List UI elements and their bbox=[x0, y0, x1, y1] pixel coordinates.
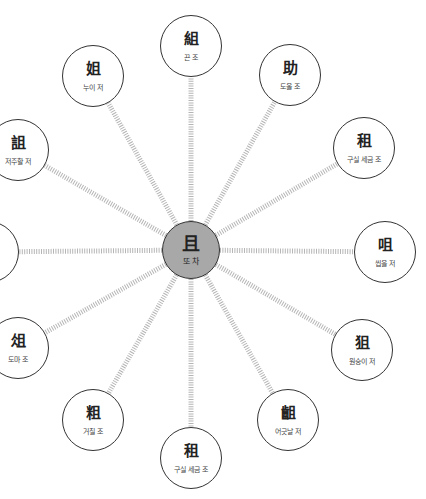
node-hanja: 粗 bbox=[86, 404, 101, 422]
node-hanja: 助 bbox=[283, 59, 298, 77]
node-0[interactable]: 組 끈 조 bbox=[160, 15, 222, 77]
node-reading: 도마 조 bbox=[8, 356, 28, 365]
node-hanja: 咀 bbox=[378, 236, 393, 254]
node-hanja: 齟 bbox=[281, 404, 296, 422]
radial-diagram: 且 또 차 組 끈 조 助 도울 조 租 구실 세금 조 咀 씹을 저 狙 원숭… bbox=[0, 0, 426, 499]
connector-line bbox=[19, 250, 162, 251]
node-reading: 원숭이 저 bbox=[349, 358, 375, 367]
node-hanja: 租 bbox=[357, 132, 372, 150]
node-3[interactable]: 咀 씹을 저 bbox=[354, 221, 416, 283]
node-hanja: 俎 bbox=[11, 332, 26, 350]
node-hanja: 租 bbox=[184, 442, 199, 460]
node-hanja: 組 bbox=[184, 30, 199, 48]
node-7[interactable]: 粗 거칠 조 bbox=[62, 389, 124, 451]
node-reading: 거칠 조 bbox=[83, 428, 103, 437]
node-reading: 씹을 저 bbox=[375, 260, 395, 269]
connector-line bbox=[108, 275, 176, 393]
node-reading: 구실 세금 조 bbox=[174, 466, 208, 475]
node-4[interactable]: 狙 원숭이 저 bbox=[331, 319, 393, 381]
node-2[interactable]: 租 구실 세금 조 bbox=[333, 117, 395, 179]
node-reading: 끈 조 bbox=[184, 54, 198, 63]
connector-line bbox=[205, 102, 274, 225]
node-hanja: 姐 bbox=[86, 60, 101, 78]
node-reading: 저주할 저 bbox=[5, 158, 31, 167]
node-5[interactable]: 齟 어긋날 저 bbox=[257, 389, 319, 451]
node-6[interactable]: 租 구실 세금 조 bbox=[160, 427, 222, 489]
node-reading: 누이 저 bbox=[83, 84, 103, 93]
node-hanja: 狙 bbox=[355, 334, 370, 352]
connector-line bbox=[205, 275, 272, 393]
connector-line bbox=[220, 250, 354, 251]
node-reading: 어긋날 저 bbox=[275, 428, 301, 437]
connector-line bbox=[216, 265, 335, 335]
center-reading: 또 차 bbox=[183, 257, 200, 266]
node-reading: 도울 조 bbox=[280, 83, 300, 92]
node-hanja: 詛 bbox=[11, 134, 26, 152]
center-hanja: 且 bbox=[182, 235, 200, 253]
node-1[interactable]: 助 도울 조 bbox=[259, 44, 321, 106]
connector-line bbox=[45, 166, 166, 236]
center-node[interactable]: 且 또 차 bbox=[162, 221, 220, 279]
node-11[interactable]: 姐 누이 저 bbox=[62, 45, 124, 107]
node-reading: 구실 세금 조 bbox=[347, 156, 381, 165]
